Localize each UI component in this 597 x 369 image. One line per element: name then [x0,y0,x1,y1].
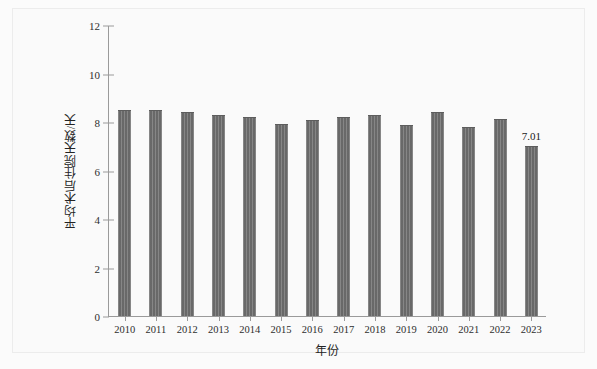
y-axis-tick-label: 6 [95,166,101,178]
y-axis-title-label: 平均术后住院天数/天 [62,113,79,229]
chart-figure: 平均术后住院天数/天 02468101220102011201220132014… [0,0,597,369]
x-axis-tick [312,316,313,321]
y-axis-tick-label: 0 [95,311,101,323]
y-axis-tick-inner [109,123,114,124]
x-axis-tick-label-2014: 2014 [239,324,260,335]
bar-2017 [337,117,350,316]
x-axis-tick [344,316,345,321]
x-axis-tick-label-2022: 2022 [490,324,511,335]
x-axis-tick-label-2018: 2018 [364,324,385,335]
x-axis-tick [531,316,532,321]
bar-2021 [462,127,475,316]
plot-area: 0246810122010201120122013201420152016201… [108,26,546,317]
x-axis-tick-label-2019: 2019 [396,324,417,335]
bar-2019 [400,125,413,316]
x-axis-tick-label-2013: 2013 [208,324,229,335]
bar-2012 [181,112,194,316]
x-axis-tick [156,316,157,321]
x-axis-tick [375,316,376,321]
x-axis-tick [438,316,439,321]
x-axis-tick-label-2015: 2015 [271,324,292,335]
bar-2020 [431,112,444,316]
x-axis-tick-label-2023: 2023 [521,324,542,335]
bar-value-label-2023: 7.01 [522,130,541,142]
x-axis-title: 年份 [108,341,546,359]
x-axis-tick [281,316,282,321]
x-axis-tick-label-2011: 2011 [146,324,167,335]
bar-2022 [494,119,507,316]
bar-2010 [118,110,131,316]
x-axis-tick [187,316,188,321]
x-axis-tick-label-2021: 2021 [458,324,479,335]
y-axis-tick-label: 4 [95,214,101,226]
y-axis-tick-label: 10 [89,69,100,81]
x-axis-tick [219,316,220,321]
x-axis-tick-label-2012: 2012 [177,324,198,335]
bar-2013 [212,115,225,316]
y-axis-tick-label: 8 [95,117,101,129]
x-axis-tick [469,316,470,321]
y-axis-tick-inner [109,220,114,221]
bar-2011 [149,110,162,316]
x-axis-tick-label-2020: 2020 [427,324,448,335]
x-axis-tick-label-2010: 2010 [114,324,135,335]
y-axis-tick [103,317,109,318]
x-axis-tick [250,316,251,321]
bar-2015 [275,124,288,316]
bar-2014 [243,117,256,316]
bar-2016 [306,120,319,316]
y-axis-tick-inner [109,74,114,75]
y-axis-tick-inner [109,171,114,172]
y-axis-tick-inner [109,26,114,27]
bar-2018 [368,115,381,316]
x-axis-tick-label-2017: 2017 [333,324,354,335]
x-axis-tick-label-2016: 2016 [302,324,323,335]
x-axis-tick [500,316,501,321]
bar-2023 [525,146,538,316]
x-axis-tick [125,316,126,321]
y-axis-tick-inner [109,268,114,269]
y-axis-tick-label: 12 [89,20,100,32]
x-axis-tick [406,316,407,321]
y-axis-title: 平均术后住院天数/天 [62,26,78,317]
y-axis-tick-label: 2 [95,263,101,275]
